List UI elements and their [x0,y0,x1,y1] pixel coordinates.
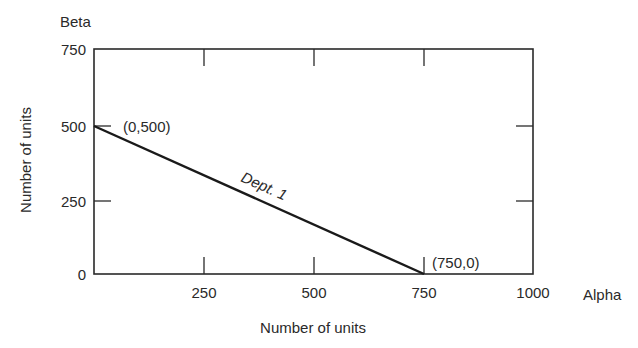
y-tick-label: 0 [78,266,86,283]
x-tick-label: 250 [191,284,216,301]
x-tick-label: 500 [301,284,326,301]
y-ticks [94,126,533,201]
series-line-dept-1 [94,126,424,274]
point-annotation-750-0: (750,0) [432,254,480,271]
x-ticks [204,49,424,274]
y-tick-label: 250 [61,193,86,210]
series-label-dept-1: Dept. 1 [239,168,290,203]
y-axis-name: Beta [60,13,92,30]
x-tick-label: 1000 [516,284,549,301]
x-tick-label: 750 [411,284,436,301]
x-axis-title: Number of units [260,319,366,336]
y-tick-label: 750 [61,41,86,58]
y-tick-label: 500 [61,118,86,135]
point-annotation-0-500: (0,500) [123,118,171,135]
chart-canvas: 750 500 250 0 250 500 750 1000 Beta Alph… [0,0,638,348]
plot-frame [94,49,533,274]
x-axis-name: Alpha [583,286,622,303]
y-axis-title: Number of units [17,107,34,213]
